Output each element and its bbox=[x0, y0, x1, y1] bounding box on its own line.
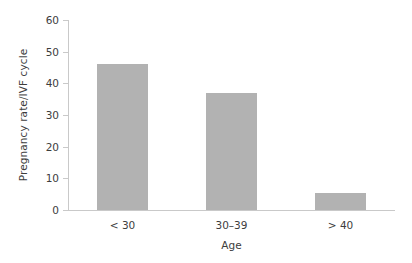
y-axis-tick: 40 bbox=[63, 83, 68, 84]
y-axis-tick: 50 bbox=[63, 52, 68, 53]
y-axis-title: Pregnancy rate/IVF cycle bbox=[14, 20, 32, 210]
bar-chart-figure: Pregnancy rate/IVF cycle 0102030405060< … bbox=[0, 0, 412, 263]
x-axis-tick-label: 30–39 bbox=[177, 218, 286, 232]
y-axis-tick-label: 60 bbox=[46, 13, 59, 27]
y-axis-tick: 60 bbox=[63, 20, 68, 21]
y-axis-tick: 10 bbox=[63, 178, 68, 179]
y-axis-tick: 20 bbox=[63, 147, 68, 148]
bar bbox=[206, 93, 257, 210]
y-axis-tick-label: 30 bbox=[46, 108, 59, 122]
y-axis-tick-label: 10 bbox=[46, 171, 59, 185]
plot-area: 0102030405060< 3030–39> 40 bbox=[68, 20, 395, 210]
y-axis-tick-label: 0 bbox=[52, 203, 59, 217]
y-axis-tick: 0 bbox=[63, 210, 68, 211]
x-axis-title: Age bbox=[68, 238, 395, 252]
y-axis-tick-label: 20 bbox=[46, 140, 59, 154]
y-axis-tick-label: 50 bbox=[46, 45, 59, 59]
bar bbox=[315, 193, 366, 210]
x-axis-tick-label: < 30 bbox=[68, 218, 177, 232]
x-axis-line bbox=[68, 210, 395, 211]
y-axis-line bbox=[68, 20, 69, 210]
x-axis-tick-label: > 40 bbox=[286, 218, 395, 232]
y-axis-tick: 30 bbox=[63, 115, 68, 116]
bar bbox=[97, 64, 148, 210]
y-axis-tick-label: 40 bbox=[46, 76, 59, 90]
